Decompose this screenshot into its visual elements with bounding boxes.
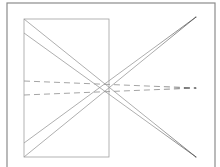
dashed-line-dash-2 bbox=[24, 88, 196, 95]
perspective-diagram bbox=[0, 0, 220, 167]
diagram-canvas bbox=[0, 0, 220, 167]
vp-top-right bbox=[195, 16, 196, 17]
vp-bottom-right bbox=[195, 156, 196, 157]
inner-rectangle bbox=[24, 19, 109, 157]
solid-line-diag-up-2 bbox=[24, 17, 196, 143]
solid-line-diag-down-2 bbox=[24, 33, 196, 157]
vanishing-points bbox=[195, 16, 196, 157]
outer-frame bbox=[7, 3, 215, 167]
converging-solid-lines bbox=[24, 17, 196, 157]
vp-middle-right bbox=[195, 87, 196, 88]
